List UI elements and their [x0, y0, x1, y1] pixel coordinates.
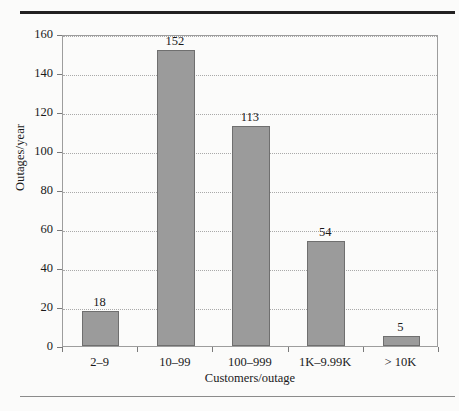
- bar: [307, 241, 345, 346]
- x-axis-tick-label: 1K–9.99K: [288, 355, 363, 370]
- y-axis-tick-label: 60: [12, 222, 53, 237]
- bar-value-label: 5: [363, 320, 438, 335]
- y-axis-tick: [57, 191, 62, 192]
- y-axis-tick-label: 160: [12, 27, 53, 42]
- bar-value-label: 113: [212, 110, 287, 125]
- bar: [383, 336, 421, 346]
- bar-chart-figure: Outages/year 020406080100120140160182–91…: [0, 0, 459, 411]
- x-axis-tick-label: > 10K: [363, 355, 438, 370]
- bar-value-label: 18: [62, 295, 137, 310]
- y-axis-tick: [57, 74, 62, 75]
- y-axis-tick: [57, 35, 62, 36]
- x-axis-tick: [438, 347, 439, 352]
- y-axis-tick-label: 80: [12, 183, 53, 198]
- x-axis-tick-label: 100–999: [212, 355, 287, 370]
- y-axis-tick: [57, 230, 62, 231]
- x-axis-tick: [288, 347, 289, 352]
- bar: [82, 311, 120, 346]
- y-axis-tick-label: 140: [12, 66, 53, 81]
- x-axis-tick: [137, 347, 138, 352]
- y-axis-tick-label: 0: [12, 339, 53, 354]
- y-axis-tick-label: 120: [12, 105, 53, 120]
- bar: [232, 126, 270, 346]
- x-axis-tick: [62, 347, 63, 352]
- y-axis-tick-label: 40: [12, 261, 53, 276]
- x-axis-tick: [212, 347, 213, 352]
- bar: [157, 50, 195, 346]
- gridline: [63, 36, 437, 37]
- y-axis-tick: [57, 113, 62, 114]
- x-axis-tick-label: 10–99: [137, 355, 212, 370]
- y-axis-tick: [57, 269, 62, 270]
- x-axis-title: Customers/outage: [62, 371, 438, 386]
- bar-value-label: 152: [137, 34, 212, 49]
- x-axis-tick-label: 2–9: [62, 355, 137, 370]
- x-axis-tick: [363, 347, 364, 352]
- bar-value-label: 54: [288, 225, 363, 240]
- gridline: [63, 75, 437, 76]
- y-axis-tick-label: 20: [12, 300, 53, 315]
- y-axis-tick-label: 100: [12, 144, 53, 159]
- y-axis-tick: [57, 152, 62, 153]
